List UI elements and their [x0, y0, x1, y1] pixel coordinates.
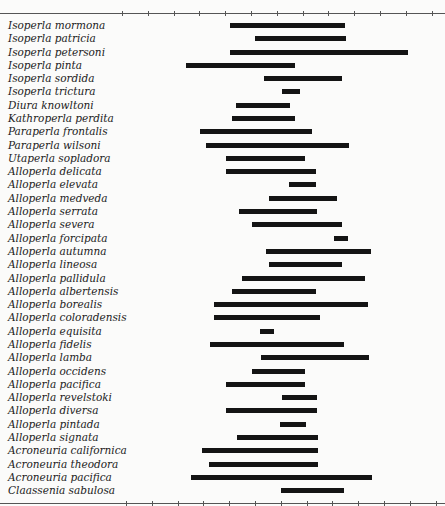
species-label: Alloperla pacifica	[8, 378, 101, 390]
species-label: Alloperla albertensis	[8, 285, 118, 297]
bottom-axis-tick	[229, 501, 230, 506]
top-axis-tick	[174, 11, 175, 16]
range-bar	[191, 475, 372, 480]
range-bar	[252, 369, 305, 374]
species-label: Alloperla revelstoki	[8, 391, 112, 403]
range-bar	[269, 262, 342, 267]
bottom-axis-tick	[203, 501, 204, 506]
bottom-axis-tick	[126, 501, 127, 506]
top-axis-tick	[303, 11, 304, 16]
range-bar	[269, 196, 337, 201]
range-bar	[200, 129, 312, 134]
range-bar	[214, 302, 368, 307]
range-bar	[230, 50, 408, 55]
range-bar	[334, 236, 348, 241]
species-label: Isoperla trictura	[8, 85, 96, 97]
top-axis-tick	[277, 11, 278, 16]
top-axis-tick	[122, 11, 123, 16]
range-bar	[255, 36, 346, 41]
species-label: Alloperla pintada	[8, 418, 100, 430]
range-bar	[282, 395, 317, 400]
range-bar	[281, 488, 344, 493]
range-bar	[210, 342, 344, 347]
bottom-axis-tick	[178, 501, 179, 506]
bottom-axis-tick	[332, 501, 333, 506]
species-label: Kathroperla perdita	[8, 112, 114, 124]
species-label: Alloperla occidens	[8, 365, 106, 377]
species-label: Acroneuria californica	[8, 444, 127, 456]
species-label: Acroneuria theodora	[8, 458, 118, 470]
species-label: Alloperla diversa	[8, 404, 98, 416]
range-bar	[282, 89, 300, 94]
top-axis-tick	[199, 11, 200, 16]
top-axis-tick	[225, 11, 226, 16]
species-label: Paraperla wilsoni	[8, 139, 101, 151]
range-bar	[202, 448, 318, 453]
range-bar	[214, 315, 320, 320]
top-axis-tick	[380, 11, 381, 16]
species-label: Alloperla lineosa	[8, 258, 97, 270]
top-axis-tick	[251, 11, 252, 16]
range-bar	[232, 116, 295, 121]
top-axis-line	[0, 13, 445, 14]
range-bar	[239, 209, 317, 214]
bottom-axis-tick	[281, 501, 282, 506]
species-label: Alloperla medveda	[8, 192, 108, 204]
range-bar	[226, 156, 305, 161]
range-bar	[237, 435, 318, 440]
range-bar	[206, 143, 349, 148]
species-label: Isoperla petersoni	[8, 46, 105, 58]
species-label: Isoperla pinta	[8, 59, 82, 71]
species-label: Alloperla delicata	[8, 165, 102, 177]
species-label: Alloperla autumna	[8, 245, 107, 257]
bottom-axis-tick	[410, 501, 411, 506]
top-axis-tick	[354, 11, 355, 16]
bottom-axis-tick	[436, 501, 437, 506]
range-bar	[226, 382, 305, 387]
top-axis-tick	[406, 11, 407, 16]
species-label: Alloperla equisita	[8, 325, 102, 337]
bottom-axis-tick	[152, 501, 153, 506]
species-label: Isoperla patricia	[8, 32, 96, 44]
range-bar-chart: Isoperla mormonaIsoperla patriciaIsoperl…	[0, 0, 445, 506]
species-label: Diura knowltoni	[8, 99, 94, 111]
species-label: Paraperla frontalis	[8, 125, 108, 137]
range-bar	[230, 23, 345, 28]
top-axis-tick	[328, 11, 329, 16]
bottom-axis-tick	[255, 501, 256, 506]
range-bar	[266, 249, 371, 254]
range-bar	[209, 462, 318, 467]
species-label: Isoperla mormona	[8, 19, 105, 31]
species-label: Alloperla severa	[8, 218, 95, 230]
species-label: Alloperla elevata	[8, 178, 98, 190]
range-bar	[186, 63, 295, 68]
top-axis-tick	[432, 11, 433, 16]
range-bar	[236, 103, 290, 108]
species-label: Claassenia sabulosa	[8, 484, 115, 496]
bottom-axis-tick	[307, 501, 308, 506]
species-label: Alloperla signata	[8, 431, 99, 443]
species-label: Acroneuria pacifica	[8, 471, 112, 483]
range-bar	[289, 182, 316, 187]
range-bar	[264, 76, 342, 81]
species-label: Alloperla coloradensis	[8, 311, 127, 323]
range-bar	[252, 222, 342, 227]
range-bar	[261, 355, 369, 360]
bottom-axis-tick	[358, 501, 359, 506]
range-bar	[260, 329, 274, 334]
species-label: Alloperla borealis	[8, 298, 102, 310]
range-bar	[226, 169, 316, 174]
range-bar	[280, 422, 306, 427]
range-bar	[226, 408, 317, 413]
range-bar	[232, 289, 316, 294]
species-label: Alloperla forcipata	[8, 232, 107, 244]
species-label: Alloperla pallidula	[8, 272, 106, 284]
species-label: Alloperla lamba	[8, 351, 92, 363]
species-label: Alloperla serrata	[8, 205, 98, 217]
bottom-axis-tick	[384, 501, 385, 506]
bottom-axis-line	[0, 503, 445, 504]
range-bar	[242, 276, 365, 281]
species-label: Isoperla sordida	[8, 72, 95, 84]
species-label: Utaperla sopladora	[8, 152, 111, 164]
top-axis-tick	[148, 11, 149, 16]
